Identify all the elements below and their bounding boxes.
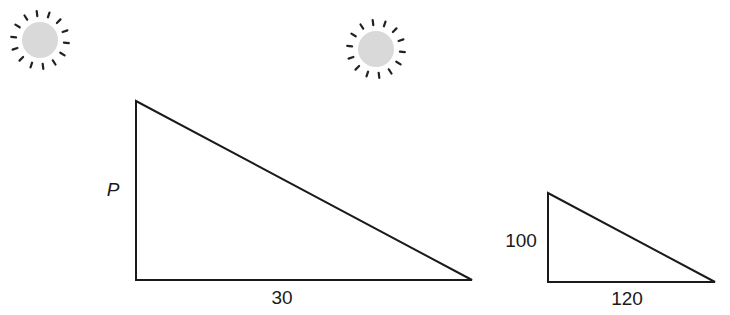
sun-ray xyxy=(25,16,28,20)
sun-ray xyxy=(20,57,24,61)
sun-ray xyxy=(31,63,33,68)
sun-ray xyxy=(399,39,404,41)
large-triangle-height-label: P xyxy=(107,179,120,200)
sun-ray xyxy=(15,25,19,28)
sun-icon xyxy=(347,20,405,78)
sun-ray xyxy=(351,34,355,37)
sun-ray xyxy=(349,57,354,59)
sun-ray xyxy=(53,60,56,64)
sun-ray xyxy=(393,28,397,32)
sun-ray xyxy=(389,69,392,73)
large-triangle-base-label: 30 xyxy=(271,287,292,308)
sun-ray xyxy=(63,30,68,32)
sun-ray xyxy=(356,66,360,70)
small-triangle-base-label: 120 xyxy=(611,288,643,309)
sun-ray xyxy=(367,72,369,77)
sun-ray xyxy=(396,62,400,65)
sun-ray xyxy=(379,73,380,78)
sun-ray xyxy=(64,43,69,44)
large-triangle xyxy=(136,101,472,280)
sun-ray xyxy=(361,25,364,29)
sun-ray xyxy=(43,64,44,69)
sun-icon xyxy=(11,11,69,69)
sun-ray xyxy=(11,37,16,38)
sun-ray xyxy=(48,13,50,18)
small-triangle xyxy=(548,193,715,282)
sun-ray xyxy=(60,53,64,56)
sun-ray xyxy=(347,46,352,47)
sun-ray xyxy=(57,19,61,23)
sun-ray xyxy=(373,20,374,25)
sun-ray xyxy=(384,22,386,27)
sun-ray xyxy=(400,52,405,53)
diagram-canvas: P 30 100 120 xyxy=(0,0,730,315)
sun-ray xyxy=(13,48,18,50)
small-triangle-height-label: 100 xyxy=(505,230,537,251)
sun-ray xyxy=(37,11,38,16)
